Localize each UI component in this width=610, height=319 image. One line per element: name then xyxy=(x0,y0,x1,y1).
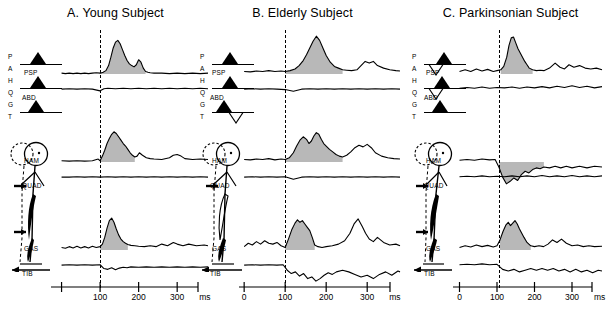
trace-label: QUAD xyxy=(22,182,42,189)
axis-tick-label: 200 xyxy=(319,292,333,302)
trace-label: ABD xyxy=(22,94,36,101)
triangle-up-icon xyxy=(28,100,44,112)
time-axis-c: 0100200300ms xyxy=(452,281,602,307)
triangle-up-icon xyxy=(222,76,238,88)
trace-label: PSP xyxy=(426,69,440,76)
key-label-bottom: Q xyxy=(8,89,13,96)
key-label-top: G xyxy=(412,101,417,108)
trace-pair: HAMQUAD xyxy=(452,118,602,192)
triangle-up-icon xyxy=(222,52,238,64)
triangle-up-icon xyxy=(30,52,46,64)
key-label-top: G xyxy=(8,101,13,108)
triangle-up-icon xyxy=(434,76,450,88)
axis-tick-label: 300 xyxy=(565,292,579,302)
trace-pair: HAMQUAD xyxy=(50,118,208,192)
axis-tick-label: 0 xyxy=(242,292,247,302)
trace-pair: HAMQUAD xyxy=(238,118,400,192)
trace-stack-a: PSPABDHAMQUADGASTIB xyxy=(50,30,208,280)
axis-tick-label: 200 xyxy=(132,292,146,302)
panel-elderly-subject: B. Elderly Subject P A H Q G T xyxy=(192,0,405,319)
panel-title-c: C. Parkinsonian Subject xyxy=(410,6,610,20)
axis-tick-label: 100 xyxy=(278,292,292,302)
stimulus-onset-line xyxy=(285,30,286,288)
trace-label: ABD xyxy=(210,94,224,101)
key-label-top: P xyxy=(8,53,12,60)
trace-label: TIB xyxy=(424,270,435,277)
key-label-bottom: T xyxy=(8,113,12,120)
trace-stack-c: PSPABDHAMQUADGASTIB xyxy=(452,30,602,280)
trace-label: QUAD xyxy=(210,182,230,189)
trace-pair: GASTIB xyxy=(238,206,400,280)
trace-label: PSP xyxy=(24,69,38,76)
key-label-bottom: A xyxy=(412,65,416,72)
axis-unit-label: ms xyxy=(594,292,605,302)
stimulus-onset-line xyxy=(499,30,500,288)
trace-label: TIB xyxy=(22,270,33,277)
trace-pair: PSPABD xyxy=(50,30,208,104)
trace-label: GAS xyxy=(212,245,226,252)
panel-parkinsonian-subject: C. Parkinsonian Subject P A H Q G T xyxy=(404,0,605,319)
axis-tick-label: 100 xyxy=(93,292,107,302)
axis-tick-label: 0 xyxy=(457,292,462,302)
key-label-top: H xyxy=(200,77,205,84)
time-axis-b: 0100200300ms xyxy=(238,281,400,307)
trace-label: GAS xyxy=(24,245,38,252)
trace-label: HAM xyxy=(212,157,227,164)
stimulus-onset-line xyxy=(100,30,101,288)
trace-label: GAS xyxy=(426,245,440,252)
key-label-bottom: T xyxy=(200,113,204,120)
key-label-top: G xyxy=(200,101,205,108)
trace-pair: PSPABD xyxy=(238,30,400,104)
trace-pair: PSPABD xyxy=(452,30,602,104)
triangle-up-icon xyxy=(436,52,452,64)
trace-label: PSP xyxy=(212,69,226,76)
key-label-top: H xyxy=(8,77,13,84)
key-label-bottom: A xyxy=(200,65,204,72)
panel-title-b: B. Elderly Subject xyxy=(196,6,409,20)
panel-young-subject: A. Young Subject P A H Q G T xyxy=(0,0,215,319)
trace-label: QUAD xyxy=(424,182,444,189)
trace-label: HAM xyxy=(426,157,441,164)
axis-tick-label: 300 xyxy=(170,292,184,302)
trace-pair: GASTIB xyxy=(452,206,602,280)
trace-stack-b: PSPABDHAMQUADGASTIB xyxy=(238,30,400,280)
triangle-up-icon xyxy=(30,76,46,88)
axis-tick-label: 200 xyxy=(527,292,541,302)
key-label-top: H xyxy=(412,77,417,84)
trace-label: TIB xyxy=(210,270,221,277)
axis-tick-label: 300 xyxy=(360,292,374,302)
triangle-up-icon xyxy=(216,100,232,112)
panel-title-a: A. Young Subject xyxy=(8,6,223,20)
axis-tick-label: 100 xyxy=(490,292,504,302)
key-label-bottom: Q xyxy=(200,89,205,96)
axis-unit-label: ms xyxy=(389,292,400,302)
key-label-top: P xyxy=(412,53,416,60)
trace-label: HAM xyxy=(24,157,39,164)
key-label-bottom: T xyxy=(412,113,416,120)
key-label-bottom: A xyxy=(8,65,12,72)
triangle-up-icon xyxy=(432,100,448,112)
trace-label: ABD xyxy=(424,94,438,101)
key-label-bottom: Q xyxy=(412,89,417,96)
trace-pair: GASTIB xyxy=(50,206,208,280)
key-label-top: P xyxy=(200,53,204,60)
time-axis-a: 100200300ms xyxy=(50,281,208,307)
